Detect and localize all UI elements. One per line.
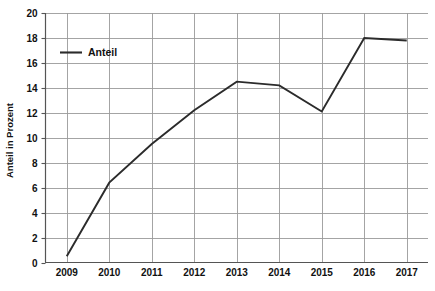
y-axis-tick-label: 10 <box>26 133 38 144</box>
y-axis-title: Anteil in Prozent <box>4 102 15 178</box>
y-axis-tick-label: 20 <box>26 8 38 19</box>
y-axis-tick-label: 16 <box>26 58 38 69</box>
line-chart-figure: 02468101214161820 2009201020112012201320… <box>0 0 435 291</box>
y-axis-tick-label: 4 <box>32 208 38 219</box>
figure-caption <box>0 276 435 291</box>
y-axis-tick-label: 12 <box>26 108 38 119</box>
y-axis-tick-label: 14 <box>26 83 38 94</box>
legend-item-label: Anteil <box>88 46 117 58</box>
chart-canvas: 02468101214161820 2009201020112012201320… <box>0 0 435 291</box>
y-axis-tick-label: 18 <box>26 33 38 44</box>
y-axis-tick-label: 0 <box>32 258 38 269</box>
y-axis-tick-label: 8 <box>32 158 38 169</box>
y-axis-tick-label: 2 <box>32 233 38 244</box>
chart-background <box>0 0 435 291</box>
y-axis-tick-label: 6 <box>32 183 38 194</box>
